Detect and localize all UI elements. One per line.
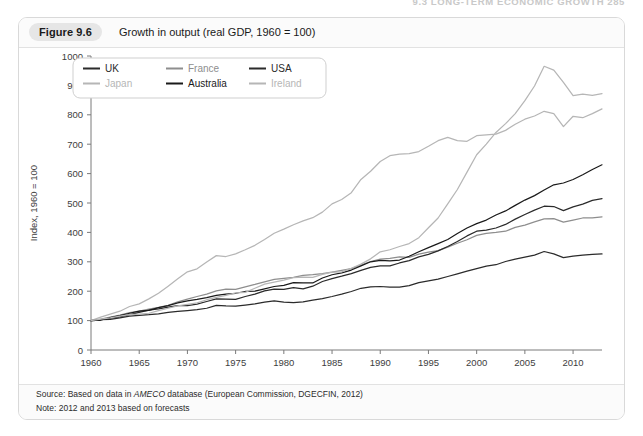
x-tick-label: 1995	[418, 357, 439, 368]
series-line-australia	[91, 165, 602, 321]
x-tick-label: 1980	[273, 357, 294, 368]
figure-panel: Figure 9.6 Growth in output (real GDP, 1…	[18, 17, 625, 420]
x-tick-label: 2000	[466, 357, 487, 368]
x-tick-label: 1990	[370, 357, 391, 368]
x-tick-label: 2005	[514, 357, 535, 368]
series-line-france	[91, 217, 602, 321]
source-note: Source: Based on data in AMECO database …	[36, 389, 363, 399]
legend-label-japan: Japan	[105, 78, 132, 89]
running-head-text: 9.3 LONG-TERM ECONOMIC GROWTH 285	[413, 0, 625, 7]
y-tick-label: 400	[67, 227, 83, 238]
x-tick-label: 1960	[80, 357, 101, 368]
chart-area: 0100200300400500600700800900100019601965…	[19, 48, 624, 386]
x-tick-label: 1965	[129, 357, 150, 368]
y-tick-label: 100	[67, 315, 83, 326]
line-chart: 0100200300400500600700800900100019601965…	[19, 48, 624, 386]
y-tick-label: 300	[67, 256, 83, 267]
y-tick-label: 200	[67, 286, 83, 297]
source-suffix: database (European Commission, DGECFIN, …	[165, 389, 363, 399]
legend-label-ireland: Ireland	[271, 78, 302, 89]
chart-legend: UKFranceUSAJapanAustraliaIreland	[73, 58, 326, 98]
y-tick-label: 800	[67, 109, 83, 120]
y-tick-label: 700	[67, 139, 83, 150]
y-tick-label: 500	[67, 198, 83, 209]
series-line-ireland	[91, 66, 602, 320]
y-tick-label: 0	[78, 345, 83, 356]
legend-label-usa: USA	[271, 63, 292, 74]
y-axis-label: Index, 1960 = 100	[28, 165, 39, 241]
x-tick-label: 2010	[563, 357, 584, 368]
running-head: 9.3 LONG-TERM ECONOMIC GROWTH 285	[0, 0, 643, 14]
legend-label-france: France	[188, 63, 220, 74]
y-tick-label: 600	[67, 168, 83, 179]
x-tick-label: 1975	[225, 357, 246, 368]
forecast-note: Note: 2012 and 2013 based on forecasts	[36, 403, 190, 413]
figure-number-badge: Figure 9.6	[29, 23, 102, 41]
legend-label-australia: Australia	[188, 78, 227, 89]
figure-header: Figure 9.6 Growth in output (real GDP, 1…	[19, 18, 624, 48]
source-prefix: Source: Based on data in	[36, 389, 134, 399]
series-line-usa	[91, 199, 602, 321]
x-tick-label: 1985	[321, 357, 342, 368]
figure-footer: Source: Based on data in AMECO database …	[19, 384, 624, 419]
legend-label-uk: UK	[105, 63, 119, 74]
x-tick-label: 1970	[177, 357, 198, 368]
figure-caption: Growth in output (real GDP, 1960 = 100)	[119, 26, 315, 38]
source-database-name: AMECO	[134, 389, 165, 399]
